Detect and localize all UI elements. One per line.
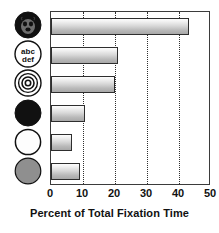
bar-bullseye-icon [51,76,115,93]
category-icon-black-circle [12,99,44,127]
category-icon-bullseye [12,69,44,97]
face-icon [14,11,42,39]
bar-row [51,128,210,157]
x-axis-title: Percent of Total Fixation Time [0,207,219,219]
text-abc-def-icon: abc def [14,40,42,68]
bar-row [51,157,210,185]
bar-row [51,41,210,70]
bar-face-icon [51,18,189,35]
bar-row [51,12,210,41]
icon-text-line2: def [22,55,34,64]
category-icon-face [12,11,44,39]
bar-row [51,70,210,99]
plot-area [50,11,210,185]
bullseye-icon [14,69,42,97]
black-circle-icon [14,99,42,127]
x-tick-label-20: 20 [108,186,120,200]
x-tick-label-50: 50 [204,186,216,200]
x-axis-tick-labels: 01020304050 [50,186,210,202]
bar-gray-circle-icon [51,163,80,180]
category-icon-gray-circle [12,157,44,185]
x-tick-label-0: 0 [47,186,53,200]
bar-white-circle-icon [51,134,72,151]
category-icon-white-circle [12,128,44,156]
gray-circle-icon [14,157,42,185]
x-tick-label-10: 10 [76,186,88,200]
x-tick-label-40: 40 [172,186,184,200]
bar-text-abc-def-icon [51,47,118,64]
x-tick-label-30: 30 [140,186,152,200]
white-circle-icon [14,128,42,156]
bar-chart: abc def [0,0,219,233]
category-icon-column: abc def [8,11,48,185]
bar-black-circle-icon [51,105,85,122]
category-icon-text: abc def [12,40,44,68]
bars-layer [51,12,209,184]
bar-row [51,99,210,128]
